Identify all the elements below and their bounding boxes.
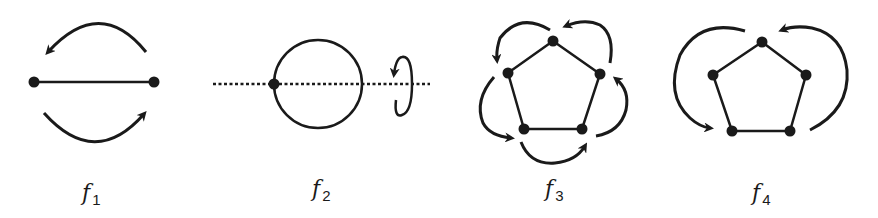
- curved-arrow-icon: [596, 79, 627, 136]
- diagram-canvas: [0, 0, 878, 218]
- curved-arrow-icon: [480, 77, 511, 138]
- vertex: [519, 124, 530, 135]
- vertex: [29, 77, 40, 88]
- curved-arrow-icon: [48, 24, 146, 53]
- label-subscript: 3: [555, 187, 563, 204]
- pentagon-shape: [713, 42, 806, 131]
- vertex: [149, 77, 160, 88]
- label-subscript: 4: [762, 191, 770, 208]
- label-f4: f4: [752, 180, 771, 208]
- vertex: [757, 37, 768, 48]
- vertex: [708, 70, 719, 81]
- panel-f2: [213, 40, 430, 128]
- vertex: [269, 79, 280, 90]
- panel-f3: [480, 22, 627, 163]
- rotation-arrow-icon: [394, 57, 412, 116]
- curved-arrow-icon: [521, 142, 585, 163]
- curved-arrow-icon: [566, 22, 611, 63]
- vertex: [577, 124, 588, 135]
- label-letter: f: [82, 180, 90, 205]
- label-letter: f: [312, 176, 320, 201]
- curved-arrow-icon: [782, 27, 847, 130]
- vertex: [801, 70, 812, 81]
- label-f3: f3: [545, 176, 564, 204]
- label-subscript: 2: [322, 187, 330, 204]
- label-subscript: 1: [92, 191, 100, 208]
- label-letter: f: [752, 180, 760, 205]
- vertex: [595, 69, 606, 80]
- curved-arrow-icon: [44, 113, 144, 142]
- vertex: [503, 68, 514, 79]
- vertex: [727, 126, 738, 137]
- vertex: [548, 36, 559, 47]
- vertex: [785, 126, 796, 137]
- panel-f1: [29, 24, 160, 142]
- panel-f4: [674, 27, 847, 137]
- label-f1: f1: [82, 180, 101, 208]
- curved-arrow-icon: [497, 23, 550, 60]
- label-f2: f2: [312, 176, 331, 204]
- pentagon-shape: [508, 41, 600, 129]
- label-letter: f: [545, 176, 553, 201]
